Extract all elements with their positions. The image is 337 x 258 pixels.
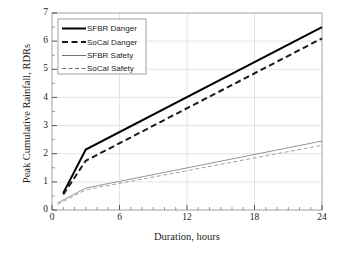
ytick-label-6: 6 <box>34 35 48 45</box>
figure-container: SFBR Danger SoCal Danger SFBR Safety SoC… <box>0 0 337 258</box>
xtick-label-0: 0 <box>43 212 61 222</box>
ytick-label-1: 1 <box>34 176 48 186</box>
ytick-label-5: 5 <box>34 63 48 73</box>
legend-label-socal-danger: SoCal Danger <box>87 38 137 47</box>
xtick-label-24: 24 <box>313 212 331 222</box>
x-major-ticks <box>52 205 322 210</box>
ytick-label-4: 4 <box>34 92 48 102</box>
xtick-label-6: 6 <box>111 212 129 222</box>
x-axis-title: Duration, hours <box>52 231 322 242</box>
ytick-label-2: 2 <box>34 148 48 158</box>
series-line-socal-safety <box>58 145 322 204</box>
legend-label-sfbr-safety: SFBR Safety <box>87 51 133 60</box>
legend-label-sfbr-danger: SFBR Danger <box>87 24 137 33</box>
xtick-label-18: 18 <box>246 212 264 222</box>
ytick-label-7: 7 <box>34 7 48 17</box>
xtick-label-12: 12 <box>178 212 196 222</box>
series-line-sfbr-safety <box>58 141 322 203</box>
legend-label-socal-safety: SoCal Safety <box>87 64 134 73</box>
ytick-label-3: 3 <box>34 120 48 130</box>
y-axis-title: Peak Cumulative Rainfall, RDRs <box>21 34 32 194</box>
caption-fragment <box>4 248 184 256</box>
